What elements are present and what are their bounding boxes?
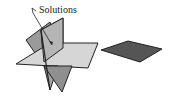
separate-plane (101, 41, 162, 62)
solutions-label: Solutions (39, 4, 77, 15)
figure-canvas: Solutions (0, 0, 176, 103)
planes-diagram: Solutions (0, 0, 176, 103)
